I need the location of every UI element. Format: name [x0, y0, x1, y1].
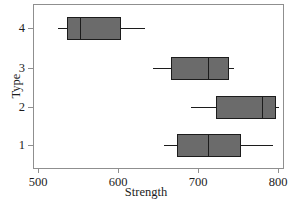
x-tick-label: 700 [189, 176, 208, 189]
y-axis-ticks [28, 29, 33, 146]
box-iqr [68, 18, 121, 40]
box-iqr [172, 58, 229, 80]
boxplot-figure: 500 600 700 800 4 3 2 1 Strength Type [0, 0, 292, 203]
box-group [191, 97, 279, 119]
plot-canvas [0, 0, 292, 203]
y-axis-title: Type [10, 74, 23, 99]
box-group [153, 58, 234, 80]
box-plot-series [58, 18, 279, 157]
box-group [58, 18, 145, 40]
x-tick-label: 800 [269, 176, 288, 189]
box-iqr [217, 97, 276, 119]
x-axis-title: Strength [125, 186, 167, 199]
y-tick-label: 3 [0, 62, 25, 75]
x-tick-label: 500 [29, 176, 48, 189]
y-tick-label: 2 [0, 100, 25, 113]
y-tick-label: 4 [0, 22, 25, 35]
box-group [164, 135, 273, 157]
y-tick-label: 1 [0, 139, 25, 152]
